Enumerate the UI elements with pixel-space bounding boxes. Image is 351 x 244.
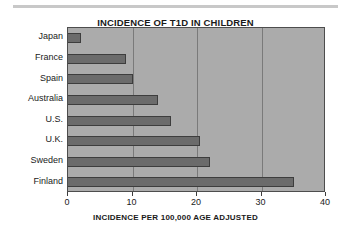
bar-row	[68, 69, 324, 90]
y-axis-label-australia: Australia	[0, 93, 63, 103]
y-axis-category-labels: JapanFranceSpainAustraliaU.S.U.K.SwedenF…	[0, 27, 63, 192]
y-axis-label-france: France	[0, 52, 63, 62]
x-axis-title: INCIDENCE PER 100,000 AGE ADJUSTED	[0, 213, 351, 222]
bar-france	[68, 54, 126, 64]
bar-spain	[68, 74, 133, 84]
bar-row	[68, 152, 324, 173]
y-axis-label-spain: Spain	[0, 73, 63, 83]
plot-area	[67, 27, 325, 192]
x-tick-mark-0	[67, 192, 68, 196]
x-tick-label-0: 0	[47, 197, 87, 207]
y-axis-label-u-k: U.K.	[0, 134, 63, 144]
bar-row	[68, 111, 324, 132]
y-axis-label-finland: Finland	[0, 176, 63, 186]
bar-row	[68, 28, 324, 49]
x-tick-mark-10	[132, 192, 133, 196]
bar-u-s	[68, 116, 171, 126]
x-tick-label-10: 10	[112, 197, 152, 207]
bar-sweden	[68, 157, 210, 167]
x-tick-label-20: 20	[176, 197, 216, 207]
bar-row	[68, 131, 324, 152]
bars-group	[68, 28, 324, 191]
top-divider-rule	[13, 5, 338, 8]
x-tick-label-40: 40	[305, 197, 345, 207]
x-tick-label-30: 30	[241, 197, 281, 207]
x-axis-ticks: 010203040	[0, 192, 351, 210]
bar-row	[68, 90, 324, 111]
x-tick-mark-30	[261, 192, 262, 196]
y-axis-label-japan: Japan	[0, 31, 63, 41]
bar-australia	[68, 95, 158, 105]
bar-japan	[68, 33, 81, 43]
bar-u-k	[68, 136, 200, 146]
bar-row	[68, 49, 324, 70]
bar-finland	[68, 177, 294, 187]
x-tick-mark-40	[325, 192, 326, 196]
chart-figure: INCIDENCE OF T1D IN CHILDREN JapanFrance…	[0, 10, 351, 244]
y-axis-label-u-s: U.S.	[0, 114, 63, 124]
x-tick-mark-20	[196, 192, 197, 196]
y-axis-label-sweden: Sweden	[0, 155, 63, 165]
bar-row	[68, 172, 324, 192]
